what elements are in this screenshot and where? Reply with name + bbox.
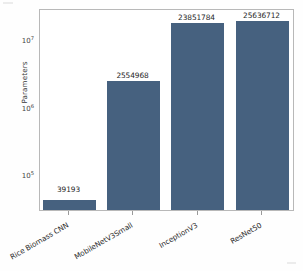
bar-value-label-inceptionv3: 23851784 [170,13,223,22]
x-tick-label-mobilenetv3small: MobileNetV3Small [64,221,134,267]
y-tick-exponent: 5 [31,170,34,176]
scan-artifact [3,2,13,4]
plot-area [39,9,294,211]
bar-resnet50[interactable] [236,21,289,210]
x-tick-label-rice-biomass-cnn: Rice Biomass CNN [3,221,70,265]
y-tick-exponent: 7 [31,34,34,40]
bar-value-label-resnet50: 25636712 [235,11,288,20]
x-tick-mark [68,211,69,215]
y-tick-exponent: 6 [31,102,34,108]
x-tick-mark [261,211,262,215]
y-tick-label: 105 [0,172,34,180]
bar-value-label-mobilenetv3small: 2554968 [106,71,159,80]
scan-artifact [287,262,296,264]
bar-mobilenetv3small[interactable] [107,81,160,210]
y-tick-label: 106 [0,105,34,113]
bar-value-label-rice-biomass-cnn: 39193 [42,185,95,194]
bar-inceptionv3[interactable] [171,23,224,210]
x-tick-label-inceptionv3: InceptionV3 [150,221,200,255]
figure-canvas: Parameters 107 106 105 [0,0,303,271]
x-tick-mark [197,211,198,215]
x-tick-mark [132,211,133,215]
y-tick-label: 107 [0,37,34,45]
x-tick-label-resnet50: ResNet50 [222,221,263,250]
bar-rice-biomass-cnn[interactable] [43,200,96,210]
